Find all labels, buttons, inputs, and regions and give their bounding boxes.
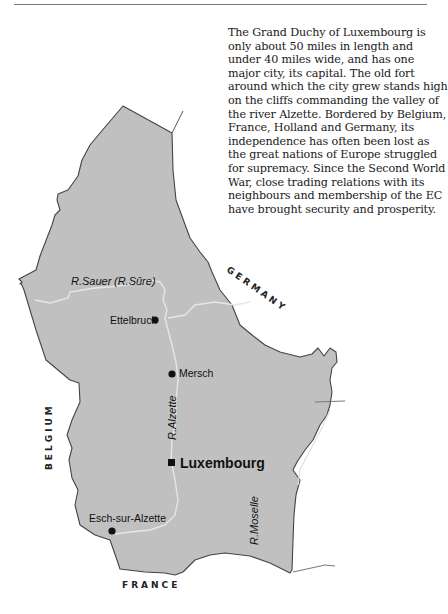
luxembourg-territory [19, 106, 337, 575]
label-river-sauer: R.Sauer [71, 275, 113, 287]
label-river-alzette: R.Alzette [166, 395, 178, 440]
label-germany: GERMANY [225, 264, 289, 313]
label-france: FRANCE [122, 580, 180, 590]
border-stub-north [172, 111, 183, 133]
label-ettelbruck: Ettelbruck [110, 314, 157, 326]
label-capital-luxembourg: Luxembourg [180, 455, 265, 471]
label-river-sure: (R.Sûre) [114, 275, 156, 287]
label-river-moselle: R.Moselle [248, 496, 260, 545]
label-belgium: BELGIUM [44, 403, 54, 470]
label-esch-sur-alzette: Esch-sur-Alzette [89, 512, 166, 524]
label-mersch: Mersch [179, 367, 214, 379]
capital-marker [168, 459, 175, 466]
town-dot-mersch [168, 370, 175, 377]
town-dot-esch [108, 527, 115, 534]
border-stub-south [293, 565, 335, 572]
